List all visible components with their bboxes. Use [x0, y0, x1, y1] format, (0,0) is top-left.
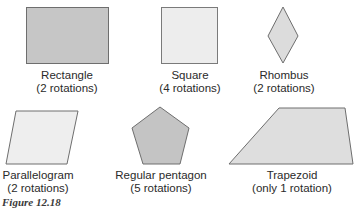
parallelogram-name: Parallelogram: [3, 169, 74, 182]
parallelogram-label: Parallelogram (2 rotations): [3, 169, 74, 195]
rectangle-name: Rectangle: [36, 69, 97, 82]
figure-caption: Figure 12.18: [2, 196, 61, 208]
trapezoid-rotations: (only 1 rotation): [252, 182, 332, 195]
pentagon-label: Regular pentagon (5 rotations): [115, 169, 206, 195]
rectangle-label: Rectangle (2 rotations): [36, 69, 97, 95]
pentagon-name: Regular pentagon: [115, 169, 206, 182]
trapezoid-shape: [229, 108, 353, 164]
pentagon-shape: [132, 107, 189, 164]
rhombus-rotations: (2 rotations): [253, 82, 314, 95]
trapezoid-label: Trapezoid (only 1 rotation): [252, 169, 332, 195]
rhombus-label: Rhombus (2 rotations): [253, 69, 314, 95]
trapezoid-name: Trapezoid: [252, 169, 332, 182]
square-label: Square (4 rotations): [159, 69, 220, 95]
square-name: Square: [159, 69, 220, 82]
parallelogram-rotations: (2 rotations): [3, 182, 74, 195]
square-shape: [162, 8, 218, 64]
rhombus-shape: [268, 7, 298, 63]
rectangle-shape: [27, 8, 109, 64]
rectangle-rotations: (2 rotations): [36, 82, 97, 95]
pentagon-rotations: (5 rotations): [115, 182, 206, 195]
parallelogram-shape: [6, 111, 78, 164]
square-rotations: (4 rotations): [159, 82, 220, 95]
rhombus-name: Rhombus: [253, 69, 314, 82]
